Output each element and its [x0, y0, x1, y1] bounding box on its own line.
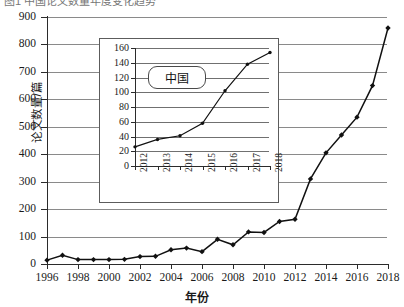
main-series-marker: [91, 257, 96, 262]
main-series-marker: [184, 245, 189, 250]
main-series-marker: [122, 257, 127, 262]
main-series-marker: [168, 247, 173, 252]
inset-series-marker: [201, 122, 204, 125]
inset-series-line: [135, 52, 270, 146]
inset-series-marker: [156, 138, 159, 141]
main-series-marker: [385, 25, 390, 30]
inset-series-marker: [133, 145, 136, 148]
inset-series-marker: [268, 51, 271, 54]
inset-series-marker: [223, 89, 226, 92]
inset-chart-panel: 020406080100120140160 201220132014201520…: [99, 38, 279, 203]
main-series-marker: [44, 257, 49, 262]
main-series-marker: [370, 83, 375, 88]
main-series-marker: [153, 254, 158, 259]
main-series-marker: [60, 253, 65, 258]
main-series-marker: [106, 257, 111, 262]
inset-series-marker: [178, 134, 181, 137]
main-series-marker: [137, 254, 142, 259]
inset-series-marker: [246, 63, 249, 66]
main-series-marker: [75, 257, 80, 262]
inset-data-series: [100, 39, 280, 204]
main-series-marker: [292, 217, 297, 222]
